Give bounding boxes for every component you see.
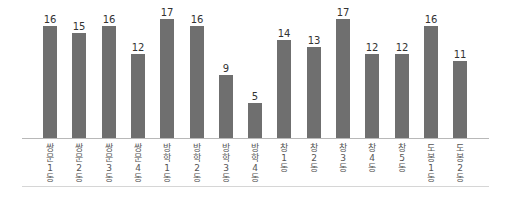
data-label: 13: [299, 36, 329, 46]
category-label-char: 창: [392, 143, 412, 153]
category-label-char: 5: [392, 153, 412, 163]
category-label-char: 4: [362, 153, 382, 163]
category-label-char: 창: [274, 143, 294, 153]
bar: [160, 19, 174, 138]
category-label-char: 학: [245, 153, 265, 163]
category-label: 방학1동: [157, 143, 177, 183]
category-label-char: 동: [421, 173, 441, 183]
category-label-char: 동: [245, 173, 265, 183]
category-label-char: 방: [187, 143, 207, 153]
category-label-char: 동: [69, 173, 89, 183]
bar: [248, 103, 262, 138]
category-label-char: 쌍: [69, 143, 89, 153]
category-label: 창2동: [304, 143, 324, 173]
category-label-char: 봉: [421, 153, 441, 163]
category-label: 방학4동: [245, 143, 265, 183]
category-label: 도봉1동: [421, 143, 441, 183]
data-label: 12: [387, 43, 417, 53]
data-label: 16: [182, 15, 212, 25]
category-label-char: 1: [421, 163, 441, 173]
x-axis-line: [22, 138, 489, 139]
bar: [424, 26, 438, 138]
category-label-char: 동: [216, 173, 236, 183]
data-label: 17: [328, 8, 358, 18]
category-label: 쌍문4동: [128, 143, 148, 183]
category-label-char: 문: [40, 153, 60, 163]
category-label-char: 동: [157, 173, 177, 183]
category-label-char: 방: [157, 143, 177, 153]
category-label: 쌍문1동: [40, 143, 60, 183]
category-label: 방학2동: [187, 143, 207, 183]
category-label-char: 동: [304, 163, 324, 173]
category-label-char: 쌍: [40, 143, 60, 153]
data-label: 15: [64, 22, 94, 32]
data-label: 17: [152, 8, 182, 18]
category-label-char: 동: [450, 173, 470, 183]
category-label-char: 1: [157, 163, 177, 173]
data-label: 12: [357, 43, 387, 53]
category-label-char: 4: [128, 163, 148, 173]
category-label-char: 쌍: [128, 143, 148, 153]
category-label: 창3동: [333, 143, 353, 173]
bar: [336, 19, 350, 138]
category-label-char: 3: [216, 163, 236, 173]
bottom-rule: [22, 186, 489, 187]
category-label-char: 동: [333, 163, 353, 173]
category-label: 창1동: [274, 143, 294, 173]
category-label-char: 3: [99, 163, 119, 173]
category-label-char: 2: [69, 163, 89, 173]
category-label-char: 창: [362, 143, 382, 153]
category-label-char: 창: [333, 143, 353, 153]
category-label-char: 2: [450, 163, 470, 173]
category-label-char: 4: [245, 163, 265, 173]
data-label: 16: [35, 15, 65, 25]
data-label: 5: [240, 92, 270, 102]
bar: [219, 75, 233, 138]
bar: [453, 61, 467, 138]
category-label-char: 2: [187, 163, 207, 173]
category-label-char: 봉: [450, 153, 470, 163]
bar: [307, 47, 321, 138]
category-label-char: 문: [69, 153, 89, 163]
category-label-char: 동: [128, 173, 148, 183]
category-label-char: 도: [421, 143, 441, 153]
data-label: 11: [445, 50, 475, 60]
category-label-char: 학: [216, 153, 236, 163]
category-label-char: 문: [99, 153, 119, 163]
category-label-char: 동: [99, 173, 119, 183]
bar: [190, 26, 204, 138]
bar: [277, 40, 291, 138]
data-label: 9: [211, 64, 241, 74]
category-label-char: 1: [274, 153, 294, 163]
category-label-char: 문: [128, 153, 148, 163]
category-label-char: 3: [333, 153, 353, 163]
category-label-char: 동: [40, 173, 60, 183]
category-label-char: 방: [216, 143, 236, 153]
category-label: 창4동: [362, 143, 382, 173]
data-label: 16: [416, 15, 446, 25]
data-label: 16: [94, 15, 124, 25]
bar: [365, 54, 379, 138]
category-label: 도봉2동: [450, 143, 470, 183]
category-label-char: 도: [450, 143, 470, 153]
category-label-char: 동: [187, 173, 207, 183]
category-label-char: 동: [362, 163, 382, 173]
bar: [43, 26, 57, 138]
bar: [131, 54, 145, 138]
data-label: 12: [123, 43, 153, 53]
data-label: 14: [269, 29, 299, 39]
category-label-char: 2: [304, 153, 324, 163]
bar: [102, 26, 116, 138]
category-label-char: 쌍: [99, 143, 119, 153]
category-label-char: 동: [274, 163, 294, 173]
category-label-char: 동: [392, 163, 412, 173]
bar: [72, 33, 86, 138]
category-label-char: 창: [304, 143, 324, 153]
bar: [395, 54, 409, 138]
bar-chart: 16쌍문1동15쌍문2동16쌍문3동12쌍문4동17방학1동16방학2동9방학3…: [0, 0, 510, 198]
category-label-char: 1: [40, 163, 60, 173]
category-label-char: 방: [245, 143, 265, 153]
category-label: 쌍문3동: [99, 143, 119, 183]
category-label: 쌍문2동: [69, 143, 89, 183]
category-label: 방학3동: [216, 143, 236, 183]
